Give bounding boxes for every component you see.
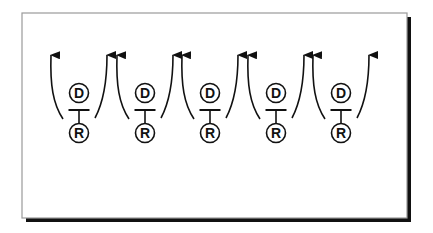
- defender-label: D: [74, 85, 84, 101]
- diagram-frame: [22, 13, 411, 222]
- receiver-label: R: [74, 125, 84, 141]
- defender-label: D: [271, 85, 281, 101]
- play-diagram: DRDRDRDRDR: [0, 0, 433, 233]
- diagram-canvas: DRDRDRDRDR: [0, 0, 433, 233]
- receiver-label: R: [205, 125, 215, 141]
- defender-label: D: [336, 85, 346, 101]
- defender-label: D: [140, 85, 150, 101]
- receiver-label: R: [140, 125, 150, 141]
- receiver-label: R: [271, 125, 281, 141]
- defender-label: D: [205, 85, 215, 101]
- receiver-label: R: [336, 125, 346, 141]
